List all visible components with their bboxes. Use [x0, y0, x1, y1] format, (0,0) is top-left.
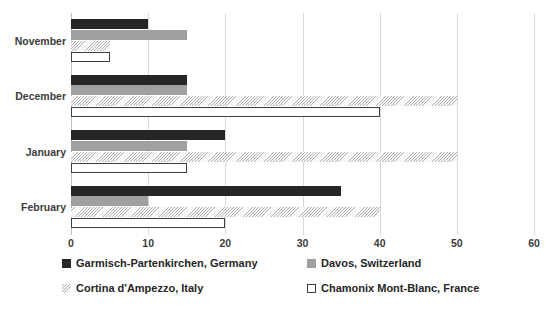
- bar: [71, 85, 187, 95]
- bar: [71, 163, 187, 173]
- legend-label: Chamonix Mont-Blanc, France: [321, 283, 479, 294]
- category-label: November: [15, 36, 66, 47]
- bar-chart: NovemberDecemberJanuaryFebruary 01020304…: [0, 0, 557, 315]
- legend-item[interactable]: Davos, Switzerland: [307, 258, 421, 269]
- bar: [71, 41, 110, 51]
- legend-swatch-icon: [307, 259, 316, 268]
- legend-label: Cortina d'Ampezzo, Italy: [76, 283, 203, 294]
- x-tick-label-40: 40: [374, 238, 386, 249]
- bar: [71, 96, 457, 106]
- category-label: December: [15, 91, 66, 102]
- bar: [71, 141, 187, 151]
- bar: [71, 186, 341, 196]
- legend-label: Garmisch-Partenkirchen, Germany: [76, 258, 258, 269]
- bar: [71, 218, 225, 228]
- bar-group: [71, 124, 534, 180]
- plot-wrapper: NovemberDecemberJanuaryFebruary 01020304…: [0, 0, 557, 252]
- legend-swatch-icon: [62, 259, 71, 268]
- bar-group: [71, 13, 534, 69]
- x-tick-label-50: 50: [451, 238, 463, 249]
- plot-area: [71, 13, 534, 235]
- legend-label: Davos, Switzerland: [321, 258, 421, 269]
- gridline-60: [534, 13, 535, 235]
- bar: [71, 19, 148, 29]
- category-label: February: [21, 202, 66, 213]
- bar: [71, 196, 148, 206]
- bar-group: [71, 180, 534, 236]
- category-axis: NovemberDecemberJanuaryFebruary: [0, 13, 66, 235]
- bar: [71, 130, 225, 140]
- x-tick-label-10: 10: [142, 238, 154, 249]
- legend-item[interactable]: Garmisch-Partenkirchen, Germany: [62, 258, 258, 269]
- bar-group: [71, 69, 534, 125]
- legend-swatch-icon: [307, 284, 316, 293]
- legend-item[interactable]: Cortina d'Ampezzo, Italy: [62, 283, 203, 294]
- x-tick-label-60: 60: [528, 238, 540, 249]
- bar: [71, 107, 380, 117]
- legend-swatch-icon: [62, 284, 71, 293]
- bar: [71, 30, 187, 40]
- bar: [71, 75, 187, 85]
- chart-legend: Garmisch-Partenkirchen, GermanyDavos, Sw…: [0, 258, 557, 308]
- bar: [71, 52, 110, 62]
- x-tick-label-0: 0: [68, 238, 74, 249]
- x-tick-label-20: 20: [219, 238, 231, 249]
- bar: [71, 207, 380, 217]
- x-tick-label-30: 30: [297, 238, 309, 249]
- category-label: January: [26, 147, 66, 158]
- legend-item[interactable]: Chamonix Mont-Blanc, France: [307, 283, 479, 294]
- bar: [71, 152, 457, 162]
